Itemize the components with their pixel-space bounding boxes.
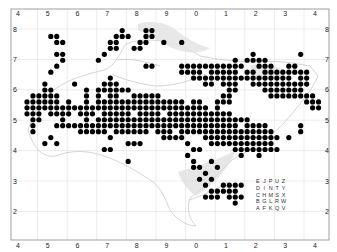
record-dot xyxy=(286,64,291,69)
record-dot xyxy=(66,111,71,116)
record-dot xyxy=(197,76,202,81)
record-dot xyxy=(84,129,89,134)
record-dot xyxy=(191,117,196,122)
record-dot xyxy=(90,105,95,110)
record-dot xyxy=(108,147,113,152)
y-tick-label-left: 4 xyxy=(13,147,17,154)
record-dot xyxy=(149,123,154,128)
tetrad-legend-letter: U xyxy=(275,178,279,184)
record-dot xyxy=(132,123,137,128)
record-dot xyxy=(132,117,137,122)
record-dot xyxy=(78,105,83,110)
record-dot xyxy=(54,141,59,146)
record-dot xyxy=(108,117,113,122)
record-dot xyxy=(298,123,303,128)
record-dot xyxy=(114,111,119,116)
x-tick-label-top: 9 xyxy=(165,10,169,17)
y-tick-label-left: 5 xyxy=(13,117,17,124)
record-dot xyxy=(155,123,160,128)
record-dot xyxy=(221,135,226,140)
record-dot xyxy=(30,105,35,110)
record-dot xyxy=(84,99,89,104)
record-dot xyxy=(132,129,137,134)
record-dot xyxy=(239,129,244,134)
record-dot xyxy=(114,123,119,128)
record-dot xyxy=(268,141,273,146)
x-tick-label-top: 8 xyxy=(135,10,139,17)
record-dot xyxy=(298,52,303,57)
record-dot xyxy=(262,81,267,86)
record-dot xyxy=(251,147,256,152)
record-dot xyxy=(96,129,101,134)
record-dot xyxy=(120,99,125,104)
tetrad-legend-letter: Z xyxy=(282,178,286,184)
record-dot xyxy=(245,147,250,152)
record-dot xyxy=(268,147,273,152)
record-dot xyxy=(203,183,208,188)
y-tick-label-left: 3 xyxy=(13,178,17,185)
record-dot xyxy=(42,105,47,110)
record-dot xyxy=(268,129,273,134)
tetrad-legend-letter: K xyxy=(269,205,273,211)
record-dot xyxy=(221,189,226,194)
record-dot xyxy=(197,99,202,104)
record-dot xyxy=(227,141,232,146)
record-dot xyxy=(268,87,273,92)
record-dot xyxy=(66,105,71,110)
record-dot xyxy=(90,129,95,134)
record-dot xyxy=(60,40,65,45)
record-dot xyxy=(215,129,220,134)
record-dot xyxy=(24,111,29,116)
record-dot xyxy=(292,87,297,92)
x-tick-label-top: 3 xyxy=(283,10,287,17)
record-dot xyxy=(209,189,214,194)
record-dot xyxy=(274,135,279,140)
record-dot xyxy=(30,123,35,128)
record-dot xyxy=(191,105,196,110)
record-dot xyxy=(132,105,137,110)
record-dot xyxy=(304,76,309,81)
record-dot xyxy=(54,40,59,45)
record-dot xyxy=(227,87,232,92)
record-dot xyxy=(137,105,142,110)
record-dot xyxy=(84,93,89,98)
record-dot xyxy=(114,40,119,45)
record-dot xyxy=(268,70,273,75)
record-dot xyxy=(155,111,160,116)
record-dot xyxy=(42,99,47,104)
record-dot xyxy=(233,123,238,128)
record-dot xyxy=(149,34,154,39)
record-dot xyxy=(256,135,261,140)
record-dot xyxy=(102,99,107,104)
y-tick-label-right: 6 xyxy=(325,86,329,93)
record-dot xyxy=(262,135,267,140)
x-tick-label-top: 7 xyxy=(105,10,109,17)
record-dot xyxy=(262,58,267,63)
record-dot xyxy=(221,111,226,116)
record-dot xyxy=(203,129,208,134)
record-dot xyxy=(48,111,53,116)
record-dot xyxy=(233,117,238,122)
record-dot xyxy=(256,147,261,152)
record-dot xyxy=(197,129,202,134)
record-dot xyxy=(102,105,107,110)
record-dot xyxy=(179,99,184,104)
record-dot xyxy=(221,129,226,134)
record-dot xyxy=(262,123,267,128)
tetrad-legend-letter: R xyxy=(275,198,279,204)
record-dot xyxy=(126,129,131,134)
tetrad-legend-letter: N xyxy=(269,185,273,191)
record-dot xyxy=(209,70,214,75)
record-dot xyxy=(30,129,35,134)
record-dot xyxy=(84,87,89,92)
tetrad-legend-letter: W xyxy=(281,198,287,204)
record-dot xyxy=(48,105,53,110)
record-dot xyxy=(173,111,178,116)
record-dot xyxy=(227,117,232,122)
record-dot xyxy=(227,195,232,200)
record-dot xyxy=(292,81,297,86)
record-dot xyxy=(114,129,119,134)
record-dot xyxy=(233,183,238,188)
record-dot xyxy=(36,93,41,98)
tetrad-legend-letter: E xyxy=(256,178,260,184)
